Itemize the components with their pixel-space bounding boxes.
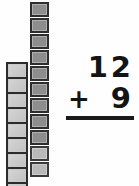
top-addend-row: 12 [66, 52, 134, 83]
unit-square[interactable] [30, 98, 49, 113]
unit-square[interactable] [30, 66, 49, 81]
worksheet-canvas: 12 + 9 [0, 0, 139, 186]
rod-cell [8, 124, 26, 139]
bottom-addend-row: + 9 [66, 83, 134, 114]
rod-cell [8, 79, 26, 94]
rod-cell [8, 64, 26, 79]
rod-cell [8, 94, 26, 109]
rod-cell [8, 169, 26, 184]
top-addend: 12 [88, 52, 134, 83]
unit-square[interactable] [30, 82, 49, 97]
rod-cell [8, 184, 26, 186]
unit-square[interactable] [30, 130, 49, 145]
answer-row[interactable] [66, 120, 134, 150]
rod-cell [8, 154, 26, 169]
plus-operator: + [66, 84, 90, 115]
unit-square-column[interactable] [30, 2, 51, 178]
unit-square[interactable] [30, 34, 49, 49]
rod-cell [8, 109, 26, 124]
rod-cell [8, 139, 26, 154]
unit-square[interactable] [30, 114, 49, 129]
bottom-addend: 9 [111, 83, 134, 114]
unit-square[interactable] [30, 162, 49, 177]
unit-square[interactable] [30, 50, 49, 65]
unit-square[interactable] [30, 146, 49, 161]
ten-rod-column[interactable] [6, 62, 28, 186]
unit-square[interactable] [30, 2, 49, 17]
addition-problem: 12 + 9 [66, 52, 134, 150]
unit-square[interactable] [30, 18, 49, 33]
